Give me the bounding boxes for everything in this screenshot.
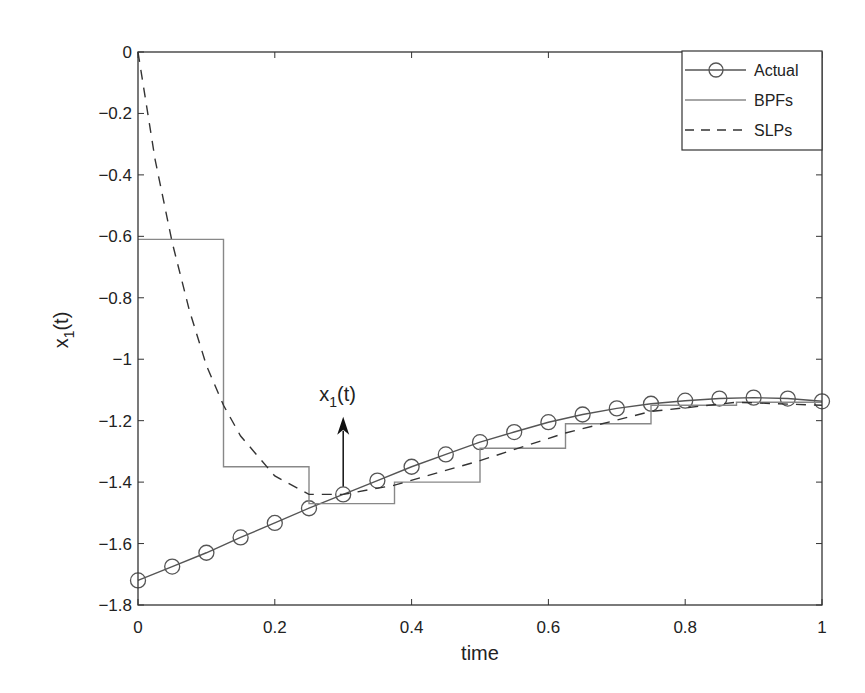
- y-tick-label: −0.2: [98, 104, 132, 123]
- y-tick-label: 0: [123, 43, 132, 62]
- annotation-label: x1(t): [319, 383, 356, 410]
- y-tick-label: −0.4: [98, 166, 132, 185]
- chart: 00.20.40.60.810−0.2−0.4−0.6−0.8−1−1.2−1.…: [0, 0, 865, 693]
- y-tick-label: −1: [113, 350, 132, 369]
- legend-label-slps: SLPs: [754, 122, 792, 139]
- y-tick-label: −1.8: [98, 596, 132, 615]
- x-tick-label: 0.8: [673, 618, 697, 637]
- y-tick-label: −0.6: [98, 227, 132, 246]
- x-tick-label: 0: [133, 618, 142, 637]
- x-tick-label: 0.6: [537, 618, 561, 637]
- series-actual: [138, 398, 822, 581]
- series-bpfs: [138, 239, 822, 503]
- y-tick-label: −1.6: [98, 535, 132, 554]
- x-tick-label: 0.2: [263, 618, 287, 637]
- y-axis-label: x1(t): [50, 312, 77, 349]
- x-axis-label: time: [461, 642, 499, 664]
- y-tick-label: −1.4: [98, 473, 132, 492]
- y-tick-label: −0.8: [98, 289, 132, 308]
- legend-label-actual: Actual: [754, 62, 798, 79]
- annotation: x1(t): [319, 383, 356, 487]
- y-tick-label: −1.2: [98, 412, 132, 431]
- legend-label-bpfs: BPFs: [754, 92, 793, 109]
- legend: Actual BPFs SLPs: [682, 51, 822, 150]
- x-tick-label: 0.4: [400, 618, 424, 637]
- x-tick-label: 1: [817, 618, 826, 637]
